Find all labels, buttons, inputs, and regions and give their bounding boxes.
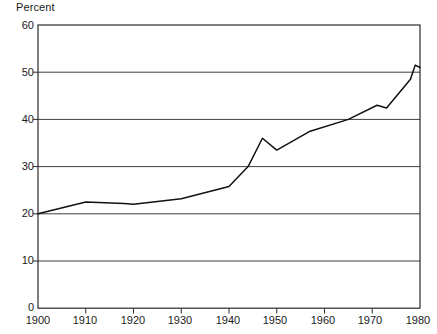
chart-container: Percent 60 50 40 30 20 10 0 1900 1910 19… — [0, 0, 437, 334]
plot-area — [0, 0, 437, 334]
x-axis-ticks-group — [86, 308, 373, 313]
gridlines-group — [38, 72, 420, 261]
y-axis-ticks-group — [33, 72, 38, 261]
data-series-line — [38, 65, 420, 214]
